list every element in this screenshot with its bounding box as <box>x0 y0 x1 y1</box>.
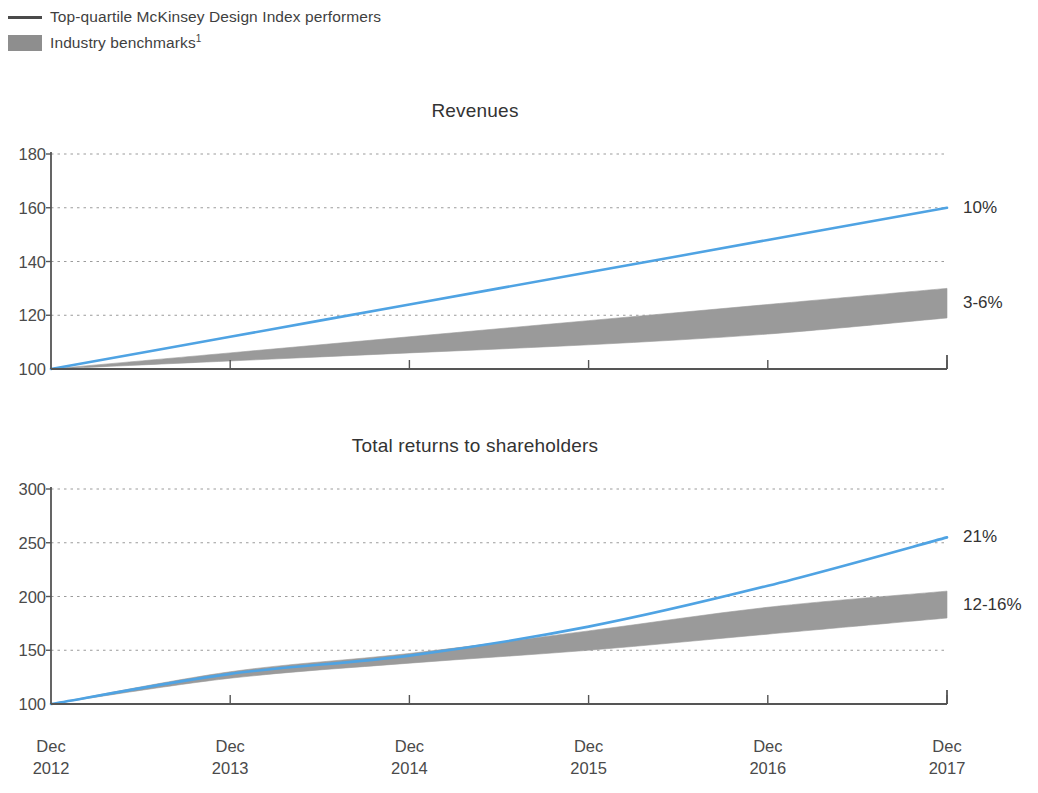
x-tick-month: Dec <box>36 737 65 755</box>
line-marker-icon <box>8 16 42 19</box>
legend-item-top-quartile: Top-quartile McKinsey Design Index perfo… <box>8 4 608 30</box>
benchmark-band <box>51 288 947 369</box>
x-tick-month: Dec <box>574 737 603 755</box>
plot-area-revenues: 100120140160180 10%3-6% <box>0 140 1038 380</box>
legend-footnote-marker: 1 <box>196 33 202 44</box>
chart-panel-total-returns: Total returns to shareholders 1001502002… <box>0 435 1038 735</box>
chart-title-revenues: Revenues <box>0 100 950 122</box>
plot-svg-total-returns <box>0 475 1038 715</box>
x-tick-month: Dec <box>395 737 424 755</box>
x-tick-month: Dec <box>932 737 961 755</box>
legend-item-industry-benchmarks: Industry benchmarks1 <box>8 30 608 56</box>
x-tick-label: Dec2012 <box>33 735 70 779</box>
x-axis-labels: Dec2012Dec2013Dec2014Dec2015Dec2016Dec20… <box>0 735 1038 793</box>
x-tick-year: 2014 <box>391 757 428 779</box>
x-tick-year: 2015 <box>570 757 607 779</box>
x-tick-month: Dec <box>216 737 245 755</box>
series-annotation-line: 10% <box>963 198 997 218</box>
x-tick-year: 2013 <box>212 757 249 779</box>
benchmark-band <box>51 591 947 704</box>
series-annotation-band: 12-16% <box>963 595 1022 615</box>
legend-item-label: Industry benchmarks1 <box>50 34 201 52</box>
chart-title-total-returns: Total returns to shareholders <box>0 435 950 457</box>
x-tick-year: 2012 <box>33 757 70 779</box>
x-tick-label: Dec2014 <box>391 735 428 779</box>
x-tick-month: Dec <box>753 737 782 755</box>
series-annotation-band: 3-6% <box>963 293 1003 313</box>
legend-label-text: Industry benchmarks <box>50 34 196 51</box>
plot-svg-revenues <box>0 140 1038 380</box>
x-tick-label: Dec2017 <box>929 735 966 779</box>
x-tick-label: Dec2016 <box>749 735 786 779</box>
legend-item-label: Top-quartile McKinsey Design Index perfo… <box>50 8 381 26</box>
legend-swatch-marker-wrap <box>8 35 50 51</box>
x-tick-year: 2017 <box>929 757 966 779</box>
x-tick-year: 2016 <box>749 757 786 779</box>
x-tick-label: Dec2015 <box>570 735 607 779</box>
plot-area-total-returns: 100150200250300 21%12-16% <box>0 475 1038 715</box>
legend-label-text: Top-quartile McKinsey Design Index perfo… <box>50 8 381 25</box>
swatch-marker-icon <box>8 35 42 51</box>
chart-legend: Top-quartile McKinsey Design Index perfo… <box>8 4 608 56</box>
chart-panel-revenues: Revenues 100120140160180 10%3-6% <box>0 100 1038 400</box>
series-annotation-line: 21% <box>963 527 997 547</box>
legend-line-marker-wrap <box>8 16 50 19</box>
x-tick-label: Dec2013 <box>212 735 249 779</box>
